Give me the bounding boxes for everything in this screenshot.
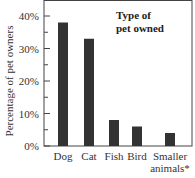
- y-tick-label: 10%: [19, 108, 39, 120]
- y-tick-label: 40%: [19, 10, 39, 22]
- x-category-label: Cat: [81, 150, 96, 162]
- y-axis-label: Percentage of pet owners: [3, 26, 15, 137]
- y-tick-label: 20%: [19, 75, 39, 87]
- x-category-label: animals*: [150, 162, 190, 174]
- y-tick-label: 0%: [24, 140, 39, 152]
- bar-fish: [109, 120, 119, 146]
- chart-title-line-1: Type of: [116, 9, 151, 21]
- bar-cat: [84, 39, 94, 146]
- bar-chart: 0%10%20%30%40% DogCatFishBirdSmalleranim…: [0, 0, 195, 178]
- x-category-label: Fish: [105, 150, 124, 162]
- x-category-label: Smaller: [153, 150, 188, 162]
- bar-smaller-animals: [165, 133, 175, 146]
- x-category-label: Dog: [54, 150, 73, 162]
- bar-dog: [58, 23, 68, 147]
- x-category-label: Bird: [127, 150, 147, 162]
- chart-title-line-2: pet owned: [116, 22, 164, 34]
- y-tick-label: 30%: [19, 43, 39, 55]
- bar-bird: [132, 127, 142, 147]
